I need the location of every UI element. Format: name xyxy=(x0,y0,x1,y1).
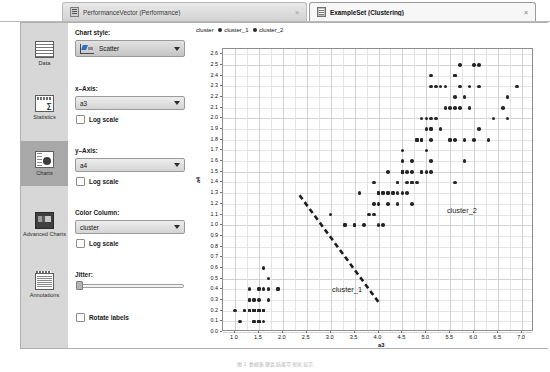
data-point xyxy=(453,138,457,142)
gridline-vertical xyxy=(283,49,284,330)
x-axis-tick xyxy=(258,331,259,333)
gridline-vertical xyxy=(235,49,236,330)
x-axis-tick-label: 3.0 xyxy=(326,334,334,340)
sidebar-item-annotations[interactable]: Annotations xyxy=(21,263,68,308)
data-point xyxy=(420,117,424,121)
data-point xyxy=(439,85,443,89)
checkbox-icon xyxy=(76,239,85,248)
tab-label: ExampleSet (Clustering) xyxy=(330,9,516,16)
x-axis-value: a3 xyxy=(80,100,174,107)
data-point xyxy=(262,266,266,270)
data-point xyxy=(248,298,252,302)
tab-exampleset-clustering[interactable]: ExampleSet (Clustering) × xyxy=(309,2,536,21)
y-axis-tick-label: 0.6 xyxy=(211,264,219,270)
y-axis-tick xyxy=(220,288,222,289)
data-point xyxy=(262,320,266,324)
jitter-label: Jitter: xyxy=(75,271,93,278)
data-point xyxy=(257,309,261,313)
y-axis-tick xyxy=(220,320,222,321)
annotations-icon xyxy=(35,273,54,290)
data-point xyxy=(463,95,467,99)
data-point xyxy=(415,181,419,185)
close-icon[interactable]: × xyxy=(520,9,528,16)
x-axis-tick xyxy=(378,331,379,333)
sidebar-item-data[interactable]: Data xyxy=(21,31,68,76)
color-column-select[interactable]: cluster xyxy=(75,220,185,234)
y-log-scale-checkbox[interactable]: Log scale xyxy=(76,177,118,186)
y-axis-tick-label: 0.0 xyxy=(211,328,219,334)
x-axis-tick xyxy=(449,331,450,333)
data-point xyxy=(238,320,242,324)
figure-caption: 图 1 数据集聚类结果可视化显示 xyxy=(0,360,550,372)
data-point xyxy=(410,159,414,163)
rapidminer-chart-window: PerformanceVector (Performance) × Exampl… xyxy=(0,0,550,372)
x-axis-tick-label: 5.5 xyxy=(445,334,453,340)
y-axis-tick-label: 1.9 xyxy=(211,125,219,131)
sidebar-item-statistics[interactable]: Statistics xyxy=(21,85,68,130)
legend-entry-cluster-1[interactable]: cluster_1 xyxy=(218,27,249,33)
data-point xyxy=(472,63,476,67)
x-axis-tick xyxy=(354,331,355,333)
data-point xyxy=(248,287,252,291)
x-axis-select[interactable]: a3 xyxy=(75,96,185,110)
x-axis-tick-label: 1.0 xyxy=(230,334,238,340)
data-point xyxy=(358,191,362,195)
sigma-icon xyxy=(35,95,54,112)
x-axis-tick-label: 3.5 xyxy=(350,334,358,340)
gridline-vertical xyxy=(474,49,475,330)
gridline-vertical-minor xyxy=(486,49,487,330)
y-axis-tick xyxy=(220,149,222,150)
y-axis-tick xyxy=(220,117,222,118)
data-point xyxy=(429,85,433,89)
data-point xyxy=(434,117,438,121)
data-point xyxy=(386,202,390,206)
data-point xyxy=(329,213,333,217)
y-axis-tick xyxy=(220,75,222,76)
x-axis-tick xyxy=(306,331,307,333)
rotate-labels-checkbox[interactable]: Rotate labels xyxy=(76,313,129,322)
data-point xyxy=(429,127,433,131)
color-log-scale-checkbox[interactable]: Log scale xyxy=(76,239,118,248)
data-point xyxy=(444,85,448,89)
data-point xyxy=(477,63,481,67)
x-axis-tick-label: 6.0 xyxy=(469,334,477,340)
sidebar-item-advanced-charts[interactable]: Advanced Charts xyxy=(21,199,68,251)
color-column-label: Color Column: xyxy=(75,209,119,216)
legend-marker-icon xyxy=(218,28,222,32)
x-axis-tick-label: 5.0 xyxy=(421,334,429,340)
data-point xyxy=(267,277,271,281)
chart-annotation: cluster_1 xyxy=(332,285,362,294)
data-point xyxy=(401,159,405,163)
gridline-vertical-minor xyxy=(319,49,320,330)
data-point xyxy=(405,181,409,185)
legend-entry-cluster-2[interactable]: cluster_2 xyxy=(253,27,284,33)
data-point xyxy=(386,170,390,174)
y-axis-select[interactable]: a4 xyxy=(75,158,185,172)
slider-thumb[interactable] xyxy=(76,281,83,290)
chart-style-select[interactable]: Scatter xyxy=(75,40,185,57)
rotate-labels-label: Rotate labels xyxy=(89,314,129,321)
data-point xyxy=(477,127,481,131)
data-point xyxy=(429,159,433,163)
data-point xyxy=(372,213,376,217)
data-point xyxy=(439,127,443,131)
gridline-vertical-minor xyxy=(367,49,368,330)
data-point xyxy=(410,170,414,174)
y-axis-tick-label: 1.0 xyxy=(211,221,219,227)
data-point xyxy=(492,117,496,121)
tab-performancevector[interactable]: PerformanceVector (Performance) × xyxy=(62,2,307,21)
scatter-plot-area[interactable] xyxy=(222,48,533,331)
data-point xyxy=(468,106,472,110)
close-icon[interactable]: × xyxy=(291,9,299,16)
data-point xyxy=(405,170,409,174)
jitter-slider[interactable] xyxy=(76,281,184,290)
sidebar-item-charts[interactable]: Charts xyxy=(21,141,68,186)
y-axis-tick xyxy=(220,267,222,268)
tab-label: PerformanceVector (Performance) xyxy=(83,9,287,16)
x-axis-tick xyxy=(234,331,235,333)
data-point xyxy=(429,117,433,121)
gridline-vertical xyxy=(402,49,403,330)
gridline-vertical xyxy=(426,49,427,330)
y-axis-tick-label: 0.3 xyxy=(211,296,219,302)
x-log-scale-checkbox[interactable]: Log scale xyxy=(76,115,118,124)
